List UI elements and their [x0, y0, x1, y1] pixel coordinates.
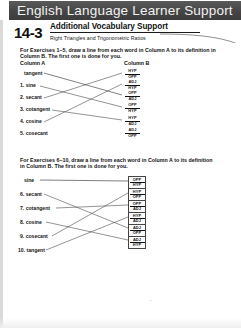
- lesson-header: 14-3 Additional Vocabulary Support Right…: [10, 22, 230, 44]
- banner-notch: [0, 1, 9, 20]
- banner-title: English Language Learner Support: [8, 3, 233, 18]
- ratio-1-6: ADJ OPP: [124, 128, 141, 138]
- scan-bottom-fade: [0, 318, 241, 328]
- matching-lines-2: [0, 172, 241, 282]
- term-item-1: 1. sine: [20, 82, 36, 88]
- exercise-2-block: sine 6. secant 7. cotangent 8. cosine 9.…: [0, 172, 241, 282]
- decorative-swoop: [160, 31, 240, 43]
- lesson-number: 14-3: [14, 24, 42, 41]
- term-item-5: 5. cosecant: [20, 130, 48, 136]
- term-item-10: 10. tangent: [18, 247, 45, 253]
- term-item-3: 3. cotangent: [20, 106, 50, 112]
- lesson-title: Additional Vocabulary Support: [50, 22, 228, 31]
- worksheet-page: English Language Learner Support 14-3 Ad…: [0, 0, 241, 328]
- ratio-1-3: OPP ADJ: [124, 91, 141, 101]
- exercise-1-block: Column A Column B tangent 1. sine 2. sec…: [0, 60, 241, 150]
- scan-speckle: [150, 300, 152, 301]
- term-example-1: tangent: [24, 70, 42, 76]
- term-item-9: 9. cosecant: [20, 233, 48, 239]
- page-banner: English Language Learner Support: [8, 1, 241, 20]
- ratio-1-5: HYP ADJ: [124, 116, 141, 126]
- term-item-7: 7. cotangent: [20, 205, 50, 211]
- ratio-1-2: ADJ HYP: [124, 80, 141, 90]
- ratio-1-1: HYP OPP: [124, 69, 141, 79]
- ratio-2-6: ADJ HYP: [128, 236, 146, 249]
- exercise-1-instructions: For Exercises 1–5, draw a line from each…: [20, 47, 216, 60]
- term-item-8: 8. cosine: [20, 219, 42, 225]
- ratio-1-4: OPP HYP: [124, 103, 141, 113]
- term-item-2: 2. secant: [20, 94, 42, 100]
- term-example-2: sine: [24, 177, 34, 183]
- term-item-4: 4. cosine: [20, 118, 42, 124]
- exercise-2-instructions: For Exercises 6–10, draw a line from eac…: [20, 157, 216, 170]
- term-item-6: 6. secant: [20, 191, 42, 197]
